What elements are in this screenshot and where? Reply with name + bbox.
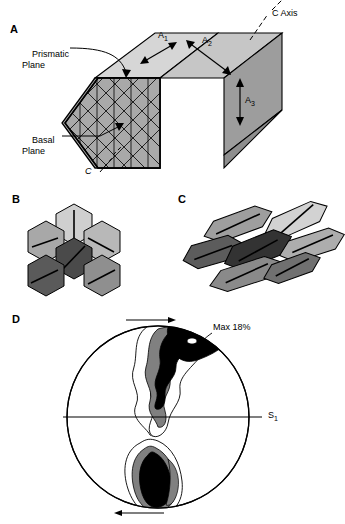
panel-d-stereonet bbox=[0, 309, 345, 524]
figure-root: A bbox=[0, 0, 345, 524]
a1-axis-label: A1 bbox=[158, 30, 168, 44]
prismatic-plane-label: Prismatic Plane bbox=[22, 38, 69, 82]
c-lower-label: C bbox=[85, 166, 92, 177]
top-shear-arrow bbox=[126, 317, 176, 323]
bottom-shear-arrow bbox=[114, 510, 164, 516]
a3-axis-label: A3 bbox=[245, 95, 255, 109]
panel-c-diagram bbox=[180, 190, 345, 300]
foliation-label: S1 bbox=[268, 410, 278, 424]
panel-b-diagram bbox=[0, 190, 165, 300]
basal-plane-label: Basal Plane bbox=[22, 124, 55, 168]
a2-axis-label: A2 bbox=[202, 35, 212, 49]
contour-eye bbox=[187, 338, 197, 344]
c-axis-label: C Axis bbox=[272, 8, 298, 19]
max-density-label: Max 18% bbox=[213, 322, 251, 333]
